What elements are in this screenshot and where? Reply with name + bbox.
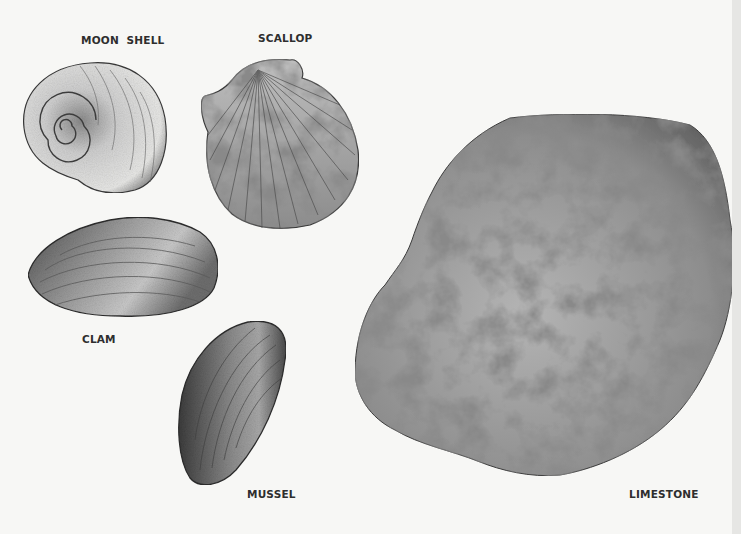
mussel-drawing [179, 321, 286, 484]
illustration-canvas [0, 0, 741, 534]
clam-drawing [28, 217, 218, 316]
moon-shell-drawing [24, 63, 167, 193]
mussel-label: MUSSEL [247, 488, 296, 500]
scallop-label: SCALLOP [258, 32, 312, 44]
clam-label: CLAM [82, 333, 116, 345]
scallop-drawing [201, 60, 358, 229]
limestone-drawing [355, 114, 734, 476]
limestone-label: LIMESTONE [629, 488, 699, 500]
page-gutter-shadow [732, 0, 741, 534]
moon-shell-label: MOON SHELL [81, 34, 165, 46]
